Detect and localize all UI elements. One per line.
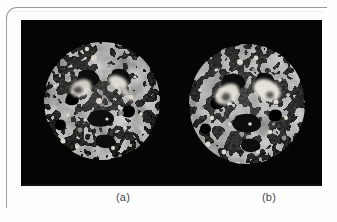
- page-border-corner: [6, 7, 17, 18]
- panel-base-edge: [23, 184, 320, 186]
- page-border-top: [16, 7, 327, 8]
- figure-captions: (a) (b): [21, 190, 322, 208]
- brain-scan-image-b: [172, 20, 322, 186]
- figure-block: [21, 20, 322, 186]
- caption-a: (a): [93, 190, 153, 204]
- mri-slice-a-svg: [21, 20, 171, 186]
- caption-b: (b): [239, 190, 299, 204]
- page-border-inner: [10, 11, 323, 12]
- mri-slice-b-svg: [172, 20, 322, 186]
- brain-scan-image-a: [21, 20, 171, 186]
- figure-image-panel: [21, 20, 322, 186]
- figure-page: (a) (b): [0, 0, 337, 222]
- page-border-left: [6, 17, 7, 208]
